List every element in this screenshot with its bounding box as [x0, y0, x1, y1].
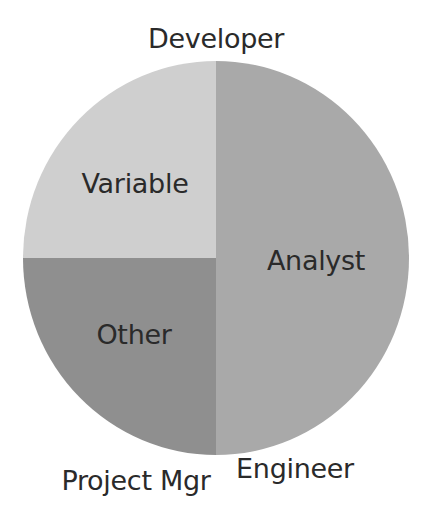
label-analyst: Analyst	[267, 245, 365, 276]
label-developer: Developer	[148, 23, 284, 54]
label-other: Other	[96, 319, 171, 350]
label-variable: Variable	[82, 168, 189, 199]
label-engineer: Engineer	[236, 453, 354, 484]
pie-slice-variable	[23, 61, 216, 258]
pie-slice-other	[23, 258, 216, 455]
label-project-mgr: Project Mgr	[61, 465, 210, 496]
